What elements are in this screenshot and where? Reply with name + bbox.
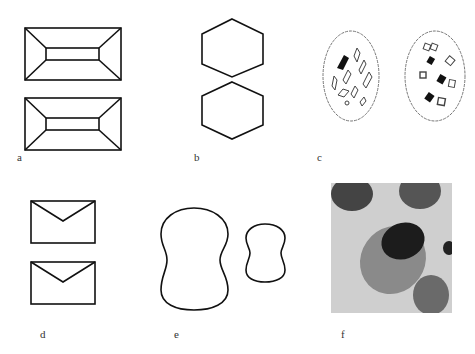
panel-e-label: e [174,329,179,340]
panel-a-label: a [17,152,22,163]
panel-d-envelope-top [31,201,95,243]
panel-b-label: b [194,152,200,163]
panel-b-hexagon-bottom [202,82,263,139]
panel-f-label: f [341,329,345,340]
panel-d-label: d [40,329,46,340]
panel-c-field-right [405,31,465,121]
panel-d-envelope-bottom [31,262,95,304]
panel-c-label: c [317,152,322,163]
panel-b-hexagon-top [202,19,263,77]
panel-a-frustum-top [25,28,121,80]
panel-a-frustum-bottom [25,98,121,150]
panel-e-shape-small [246,224,285,282]
panel-e-shape-large [161,208,228,310]
panel-c-field-left [323,31,379,121]
panel-f-micrograph [331,183,452,313]
